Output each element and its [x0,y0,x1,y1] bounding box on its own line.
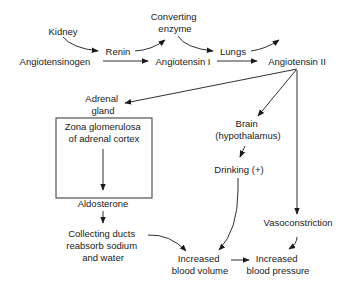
renin-angiotensin-diagram: Kidney Renin Converting enzyme Lungs Ang… [0,0,350,290]
edge-angiotensin2-brain [258,70,296,116]
node-renin-line: Renin [106,46,131,57]
edges [63,36,297,260]
node-blood-pressure: Increased blood pressure [247,253,310,276]
node-lungs: Lungs [220,46,246,57]
node-angiotensin-2: Angiotensin II [268,56,326,67]
node-angiotensin-1-line: Angiotensin I [156,56,211,67]
edge-enzyme-lungs [178,36,213,51]
node-adrenal-gland-line-2: gland [91,105,114,116]
node-angiotensin-2-line: Angiotensin II [268,56,326,67]
node-blood-pressure-line-1: Increased [256,253,298,264]
edge-renin-enzyme [135,40,165,51]
node-converting-enzyme-line-2: enzyme [158,23,191,34]
node-blood-volume: Increased blood volume [172,253,229,276]
node-converting-enzyme-line-1: Converting [151,11,197,22]
nodes: Kidney Renin Converting enzyme Lungs Ang… [20,11,333,276]
edge-angiotensin2-adrenal [125,69,297,103]
node-brain: Brain (hypothalamus) [215,118,280,141]
node-adrenal-gland: Adrenal gland [85,93,120,116]
node-brain-line-1: Brain [236,118,258,129]
node-angiotensinogen: Angiotensinogen [20,56,91,67]
node-angiotensin-1: Angiotensin I [156,56,211,67]
node-collecting-ducts-line-1: Collecting ducts [68,228,135,239]
node-aldosterone: Aldosterone [78,198,129,209]
node-lungs-line: Lungs [220,46,246,57]
node-collecting-ducts: Collecting ducts reabsorb sodium and wat… [66,228,139,263]
node-converting-enzyme: Converting enzyme [151,11,200,34]
node-drinking: Drinking (+) [214,164,263,175]
edge-vasoconstriction-pressure [289,237,297,249]
node-kidney-line: Kidney [48,26,77,37]
node-vasoconstriction: Vasoconstriction [264,217,333,228]
node-angiotensinogen-line: Angiotensinogen [20,56,91,67]
node-blood-volume-line-2: blood volume [172,265,229,276]
edge-drinking-volume [219,178,238,250]
node-collecting-ducts-line-2: reabsorb sodium [66,240,137,251]
node-renin: Renin [106,46,131,57]
node-vasoconstriction-line: Vasoconstriction [264,217,333,228]
node-drinking-line: Drinking (+) [214,164,263,175]
node-adrenal-gland-line-1: Adrenal [85,93,118,104]
node-blood-volume-line-1: Increased [178,253,220,264]
edge-lungs-up [251,40,279,51]
node-brain-line-2: (hypothalamus) [215,130,280,141]
node-zona-glomerulosa: Zona glomerulosa of adrenal cortex [65,121,144,144]
node-zona-glomerulosa-line-1: Zona glomerulosa [65,121,142,132]
node-collecting-ducts-line-3: and water [82,252,124,263]
node-blood-pressure-line-2: blood pressure [247,265,310,276]
node-zona-glomerulosa-line-2: of adrenal cortex [69,133,140,144]
edge-ducts-volume [148,235,186,251]
node-kidney: Kidney [48,26,77,37]
edge-kidney-renin [63,37,98,51]
node-aldosterone-line: Aldosterone [78,198,129,209]
edge-brain-drinking [240,146,245,157]
